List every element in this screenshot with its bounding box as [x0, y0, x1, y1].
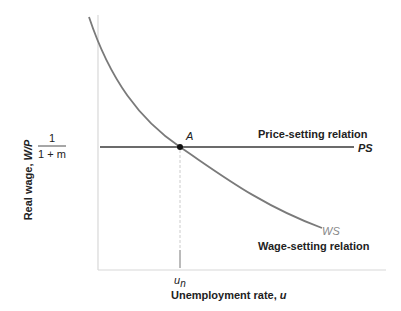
y-axis-label: Real wage, W/P	[22, 139, 34, 220]
wage-price-setting-diagram: A Price-setting relation PS WS Wage-sett…	[0, 0, 401, 311]
y-tick-denominator: 1 + m	[38, 148, 66, 160]
equilibrium-point	[177, 144, 183, 150]
ps-relation-label: Price-setting relation	[258, 128, 368, 140]
x-axis-var: u	[280, 289, 287, 301]
ws-label: WS	[322, 225, 340, 237]
x-axis-label: Unemployment rate, u	[171, 289, 287, 301]
ps-label: PS	[358, 142, 373, 154]
y-tick-numerator: 1	[49, 132, 55, 144]
point-a-label: A	[185, 130, 193, 142]
x-tick-sub: n	[180, 278, 186, 289]
y-axis-label-text: Real wage,	[22, 160, 34, 220]
x-tick-un: un	[174, 274, 186, 289]
x-axis-label-text: Unemployment rate,	[171, 289, 280, 301]
ws-relation-label: Wage-setting relation	[258, 240, 370, 252]
ws-curve	[89, 17, 322, 228]
y-axis-var: W/P	[22, 139, 34, 160]
